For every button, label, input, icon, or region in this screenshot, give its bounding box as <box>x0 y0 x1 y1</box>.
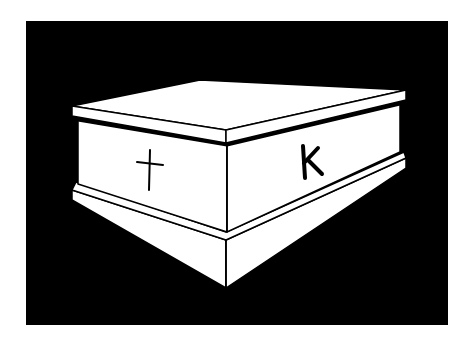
tomb-drawing <box>0 0 474 344</box>
illustration: † K <box>0 0 474 344</box>
